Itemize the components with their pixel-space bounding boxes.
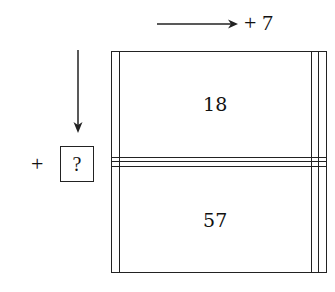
grid-cell <box>112 167 120 273</box>
grid-cell <box>311 167 319 273</box>
unknown-value-box[interactable]: ? <box>60 146 94 182</box>
grid-cell <box>112 52 120 158</box>
grid-cell: 18 <box>119 52 311 158</box>
column-operation-sign: + <box>31 153 43 175</box>
grid-cell <box>311 52 319 158</box>
grid-cell <box>319 167 327 273</box>
number-grid: 18 57 <box>111 51 327 273</box>
grid-cell: 57 <box>119 167 311 273</box>
row-operation-label: + 7 <box>244 12 273 34</box>
grid-cell <box>319 52 327 158</box>
